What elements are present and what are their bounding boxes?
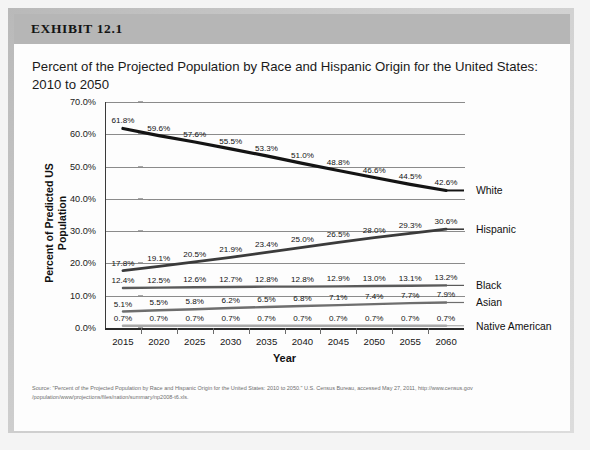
x-axis-tick-mark — [213, 328, 214, 334]
data-point-label: 7.9% — [437, 290, 455, 299]
data-point-label: 5.1% — [114, 300, 132, 309]
data-point-label: 7.7% — [401, 291, 419, 300]
scanned-page-background: EXHIBIT 12.1 Percent of the Projected Po… — [0, 0, 590, 450]
data-point-label: 20.5% — [183, 250, 206, 259]
data-point-label: 12.8% — [255, 275, 278, 284]
y-axis-tick-label: 40.0% — [70, 194, 96, 204]
data-point-label: 12.8% — [291, 275, 314, 284]
data-point-label: 51.0% — [291, 151, 314, 160]
series-line-hispanic — [123, 229, 446, 270]
x-axis-tick-label: 2035 — [256, 336, 277, 347]
data-point-label: 12.7% — [219, 275, 242, 284]
data-point-label: 0.7% — [329, 314, 347, 323]
x-axis-tick-label: 2020 — [148, 336, 169, 347]
chart-title: Percent of the Projected Population by R… — [32, 58, 552, 94]
data-point-label: 17.8% — [111, 259, 134, 268]
x-axis-tick-mark — [356, 328, 357, 334]
series-line-black — [123, 285, 446, 288]
exhibit-body: Percent of the Projected Population by R… — [14, 44, 570, 431]
data-point-label: 46.6% — [363, 166, 386, 175]
y-axis-tick-label: 60.0% — [70, 129, 96, 139]
data-point-label: 12.9% — [327, 274, 350, 283]
data-point-label: 0.7% — [114, 314, 132, 323]
source-note: Source: "Percent of the Projected Popula… — [32, 384, 552, 402]
data-point-label: 12.4% — [111, 276, 134, 285]
data-point-label: 53.3% — [255, 144, 278, 153]
exhibit-header-band: EXHIBIT 12.1 — [14, 14, 570, 44]
data-point-label: 7.1% — [329, 293, 347, 302]
x-axis-tick-mark — [285, 328, 286, 334]
chart-plot-wrapper: Percent of Predicted US Population 0.0%1… — [14, 102, 570, 377]
data-point-label: 59.6% — [147, 124, 170, 133]
data-point-label: 0.7% — [437, 314, 455, 323]
y-axis-tick-label: 30.0% — [70, 226, 96, 236]
data-point-label: 0.7% — [365, 314, 383, 323]
x-axis-tick-label: 2040 — [292, 336, 313, 347]
data-point-label: 19.1% — [147, 254, 170, 263]
data-point-label: 61.8% — [111, 116, 134, 125]
data-point-label: 13.2% — [435, 273, 458, 282]
series-line-asian — [123, 302, 446, 311]
series-line-white — [123, 128, 446, 190]
data-point-label: 13.1% — [399, 274, 422, 283]
x-axis-tick-mark — [392, 328, 393, 334]
data-point-label: 30.6% — [435, 217, 458, 226]
data-point-label: 42.6% — [435, 178, 458, 187]
x-axis-tick-mark — [320, 328, 321, 334]
data-point-label: 48.8% — [327, 158, 350, 167]
y-axis-tick-label: 10.0% — [70, 291, 96, 301]
x-axis-title: Year — [105, 352, 464, 364]
data-point-label: 5.5% — [150, 298, 168, 307]
legend-label-native-american: Native American — [476, 320, 552, 331]
x-axis-tick-label: 2015 — [112, 336, 133, 347]
data-point-label: 23.4% — [255, 240, 278, 249]
data-point-label: 0.7% — [221, 314, 239, 323]
data-point-label: 0.7% — [401, 314, 419, 323]
y-axis-tick-column: 0.0%10.0%20.0%30.0%40.0%50.0%60.0%70.0% — [52, 102, 100, 328]
y-axis-tick-label: 50.0% — [70, 162, 96, 172]
x-axis-tick-mark — [428, 328, 429, 334]
data-point-label: 5.8% — [186, 297, 204, 306]
x-axis-tick-label: 2045 — [328, 336, 349, 347]
legend-label-asian: Asian — [476, 297, 502, 308]
data-point-label: 0.7% — [293, 314, 311, 323]
x-axis-tick-label: 2050 — [364, 336, 385, 347]
data-point-label: 57.6% — [183, 130, 206, 139]
data-point-label: 0.7% — [186, 314, 204, 323]
y-axis-tick-label: 20.0% — [70, 258, 96, 268]
data-point-label: 55.5% — [219, 137, 242, 146]
x-axis-tick-label: 2025 — [184, 336, 205, 347]
data-point-label: 12.6% — [183, 275, 206, 284]
data-point-label: 6.2% — [221, 296, 239, 305]
x-axis-tick-mark — [177, 328, 178, 334]
legend-label-hispanic: Hispanic — [476, 224, 516, 235]
data-point-label: 6.8% — [293, 294, 311, 303]
data-point-label: 29.3% — [399, 221, 422, 230]
x-axis-tick-mark — [141, 328, 142, 334]
x-axis-tick-label: 2060 — [435, 336, 456, 347]
data-point-label: 26.5% — [327, 230, 350, 239]
exhibit-number-label: EXHIBIT 12.1 — [31, 21, 123, 37]
data-point-label: 13.0% — [363, 274, 386, 283]
data-point-label: 0.7% — [257, 314, 275, 323]
data-point-label: 28.0% — [363, 226, 386, 235]
data-point-label: 25.0% — [291, 235, 314, 244]
y-axis-tick-label: 70.0% — [70, 97, 96, 107]
data-point-label: 7.4% — [365, 292, 383, 301]
y-axis-tick-label: 0.0% — [75, 323, 96, 333]
x-axis-tick-mark — [249, 328, 250, 334]
legend-label-white: White — [476, 185, 503, 196]
data-point-label: 0.7% — [150, 314, 168, 323]
data-point-label: 44.5% — [399, 172, 422, 181]
data-point-label: 12.5% — [147, 276, 170, 285]
data-point-label: 21.9% — [219, 245, 242, 254]
data-point-label: 6.5% — [257, 295, 275, 304]
legend-label-black: Black — [476, 280, 501, 291]
exhibit-card: EXHIBIT 12.1 Percent of the Projected Po… — [14, 14, 570, 431]
x-axis-tick-label: 2055 — [399, 336, 420, 347]
x-axis-tick-label: 2030 — [220, 336, 241, 347]
